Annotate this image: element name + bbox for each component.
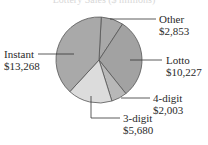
- label-instant: Instant $13,268: [4, 48, 40, 72]
- label-4digit-value: $2,003: [153, 104, 183, 116]
- label-4digit: 4-digit $2,003: [153, 92, 183, 116]
- label-lotto-name: Lotto: [166, 54, 202, 66]
- label-instant-name: Instant: [4, 48, 40, 60]
- label-other: Other $2,853: [159, 13, 189, 37]
- label-lotto: Lotto $10,227: [166, 54, 202, 78]
- label-3digit-value: $5,680: [123, 124, 153, 136]
- label-other-value: $2,853: [159, 25, 189, 37]
- label-3digit: 3-digit $5,680: [123, 112, 153, 136]
- label-other-name: Other: [159, 13, 189, 25]
- label-4digit-name: 4-digit: [153, 92, 183, 104]
- pie-slices: [56, 17, 142, 103]
- label-instant-value: $13,268: [4, 60, 40, 72]
- label-lotto-value: $10,227: [166, 66, 202, 78]
- label-3digit-name: 3-digit: [123, 112, 153, 124]
